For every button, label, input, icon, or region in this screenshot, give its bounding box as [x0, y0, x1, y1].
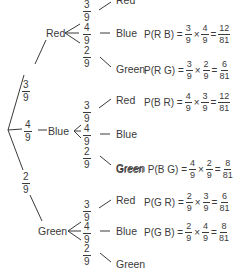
prob-root-red: 3 9 — [22, 80, 30, 103]
outcome-green-red: Red — [116, 195, 135, 206]
prob-green-red: 3 9 — [83, 200, 91, 223]
prob-red-red: 3 9 — [83, 0, 91, 23]
branch-root-green — [8, 130, 23, 170]
outcome-red-red: Red — [116, 0, 135, 6]
prob-blue-blue: 4 9 — [83, 124, 91, 147]
prob-red-blue: 4 9 — [83, 23, 91, 46]
prob-root-blue: 4 9 — [24, 120, 32, 143]
node-blue: Blue — [48, 126, 69, 137]
prob-red-green: 2 9 — [83, 46, 91, 69]
formula-blue-green: Green P(B G) = 49 × 29 = 881 — [116, 159, 233, 180]
formula-red-green: P(R G) = 39 × 29 = 681 — [144, 60, 229, 81]
outcome-green-blue: Blue — [116, 226, 137, 237]
prob-blue-green: 2 9 — [83, 147, 91, 170]
outcome-blue-blue: Blue — [116, 129, 137, 140]
branch-root-blue — [8, 129, 22, 130]
prob-green-blue: 4 9 — [83, 222, 91, 245]
prob-root-green: 2 9 — [22, 172, 30, 195]
formula-green-red: P(G R) = 29 × 39 = 681 — [144, 192, 229, 213]
node-green: Green — [38, 226, 67, 237]
formula-red-blue: P(R B) = 39 × 49 = 1281 — [144, 24, 230, 45]
outcome-red-blue: Blue — [116, 28, 137, 39]
outcome-green-green: Green — [116, 259, 145, 270]
branch-root-green-2 — [30, 195, 42, 221]
outcome-blue-red: Red — [116, 95, 135, 106]
prob-green-green: 2 9 — [83, 244, 91, 267]
branch-root-red-2 — [35, 40, 46, 64]
outcome-red-green: Green — [116, 64, 145, 75]
formula-green-blue: P(G B) = 29 × 49 = 881 — [144, 222, 229, 243]
prob-blue-red: 3 9 — [83, 101, 91, 124]
node-red: Red — [46, 28, 65, 39]
formula-blue-red: P(B R) = 49 × 39 = 1281 — [144, 92, 230, 113]
